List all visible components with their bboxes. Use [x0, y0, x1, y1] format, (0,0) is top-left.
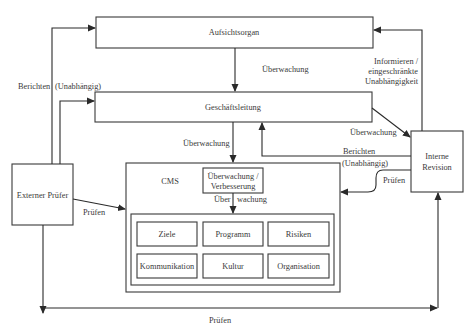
element-kultur: Kultur [203, 254, 263, 278]
verbesserung-node: Überwachung / Verbesserung [203, 168, 263, 193]
aufsichtsorgan-label: Aufsichtsorgan [209, 28, 260, 37]
element-organisation: Organisation [268, 254, 329, 278]
ueberwachung-gl-ir-label: Überwachung [350, 128, 397, 137]
geschaeftsleitung-node: Geschäftsleitung [95, 92, 372, 122]
pruefen-ext-label: Prüfen [83, 208, 106, 217]
element-ziele-label: Ziele [158, 230, 175, 239]
edge-extern-to-aufsicht [52, 28, 95, 164]
ueber-split-a-label: Über [214, 195, 231, 204]
element-kommunikation-label: Kommunikation [140, 262, 195, 271]
pruefen-bottom-label: Prüfen [209, 316, 232, 325]
element-kultur-label: Kultur [222, 262, 244, 271]
unabhaengig-left-label: (Unabhängig) [55, 82, 101, 91]
element-organisation-label: Organisation [277, 262, 321, 271]
interne-revision-label-line1: Interne [425, 152, 449, 161]
informieren-label-line2: eingeschränkte [368, 67, 418, 76]
ueberwachung-gl-cms-label: Überwachung [183, 139, 230, 148]
informieren-label-line3: Unabhängigkeit [365, 77, 419, 86]
verbesserung-label-line1: Überwachung / [208, 172, 260, 181]
element-programm-label: Programm [215, 230, 251, 239]
geschaeftsleitung-label: Geschäftsleitung [205, 103, 261, 112]
ueberwachung-top-label: Überwachung [262, 65, 309, 74]
berichten-right-label: Berichten [343, 147, 376, 156]
edge-extern-to-gl [60, 101, 94, 164]
pruefen-ir-label: Prüfen [383, 176, 406, 185]
element-ziele: Ziele [137, 222, 197, 246]
verbesserung-label-line2: Verbesserung [211, 182, 256, 191]
externer-pruefer-node: Externer Prüfer [12, 164, 73, 225]
element-risiken: Risiken [268, 222, 329, 246]
aufsichtsorgan-node: Aufsichtsorgan [96, 17, 373, 48]
compliance-diagram: Aufsichtsorgan Geschäftsleitung Externer… [0, 0, 474, 334]
element-kommunikation: Kommunikation [137, 254, 197, 278]
interne-revision-node: Interne Revision [411, 131, 463, 192]
externer-pruefer-label: Externer Prüfer [17, 191, 69, 200]
interne-revision-label-line2: Revision [422, 163, 452, 172]
unabhaengig-right-label: (Unabhängig) [342, 159, 388, 168]
cms-label: CMS [161, 177, 179, 186]
element-risiken-label: Risiken [286, 230, 312, 239]
element-programm: Programm [203, 222, 263, 246]
informieren-label-line1: Informieren / [374, 57, 419, 66]
ueber-split-b-label: wachung [237, 195, 267, 204]
berichten-left-label: Berichten [18, 82, 51, 91]
